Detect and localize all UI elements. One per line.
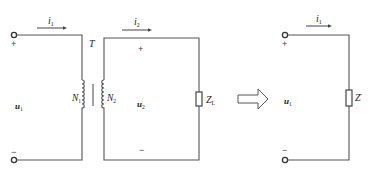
transformer-equivalent-circuit-diagram: i1 i2 + − T u1 N1 N2 + u2 − ZL i1 + − u1… (0, 0, 372, 176)
input-terminal-top (11, 32, 16, 37)
current-arrow-i2-head-icon (148, 28, 152, 32)
equivalent-impedance-icon (346, 90, 352, 106)
label-u2: u2 (137, 99, 145, 110)
load-impedance-icon (196, 92, 202, 106)
secondary-bottom-wire (104, 106, 199, 160)
equivalent-terminal-bottom (282, 157, 287, 162)
label-u1: u1 (15, 101, 23, 112)
primary-bottom-wire (17, 112, 82, 160)
output-minus-sign: − (139, 145, 144, 155)
label-i2: i2 (134, 16, 140, 28)
equivalence-arrow-icon (238, 89, 268, 109)
primary-coil-icon (82, 80, 84, 112)
secondary-circuit (102, 38, 202, 160)
label-N1: N1 (71, 93, 81, 104)
label-ZL: ZL (206, 94, 216, 106)
transformer-label: T (89, 38, 96, 49)
input-plus-sign: + (11, 39, 16, 49)
equivalent-top-wire (288, 35, 349, 90)
current-arrow-right-i1-head-icon (328, 24, 332, 28)
label-N2: N2 (106, 93, 116, 104)
output-plus-sign: + (138, 44, 143, 54)
equivalent-bottom-wire (288, 106, 349, 160)
input-minus-sign: − (11, 147, 16, 157)
label-right-u1: u1 (284, 96, 292, 107)
current-arrow-i1-head-icon (63, 26, 67, 30)
primary-top-wire (17, 35, 82, 80)
equivalent-plus-sign: + (282, 39, 287, 49)
equivalent-minus-sign: − (282, 145, 287, 155)
label-i1: i1 (48, 15, 54, 27)
label-Z-prime: Z′ (355, 92, 363, 103)
secondary-coil-icon (102, 80, 104, 112)
secondary-top-wire (104, 38, 199, 92)
label-right-i1: i1 (316, 13, 322, 25)
input-terminal-bottom (11, 157, 16, 162)
equivalent-terminal-top (282, 32, 287, 37)
equivalent-circuit (282, 32, 352, 162)
